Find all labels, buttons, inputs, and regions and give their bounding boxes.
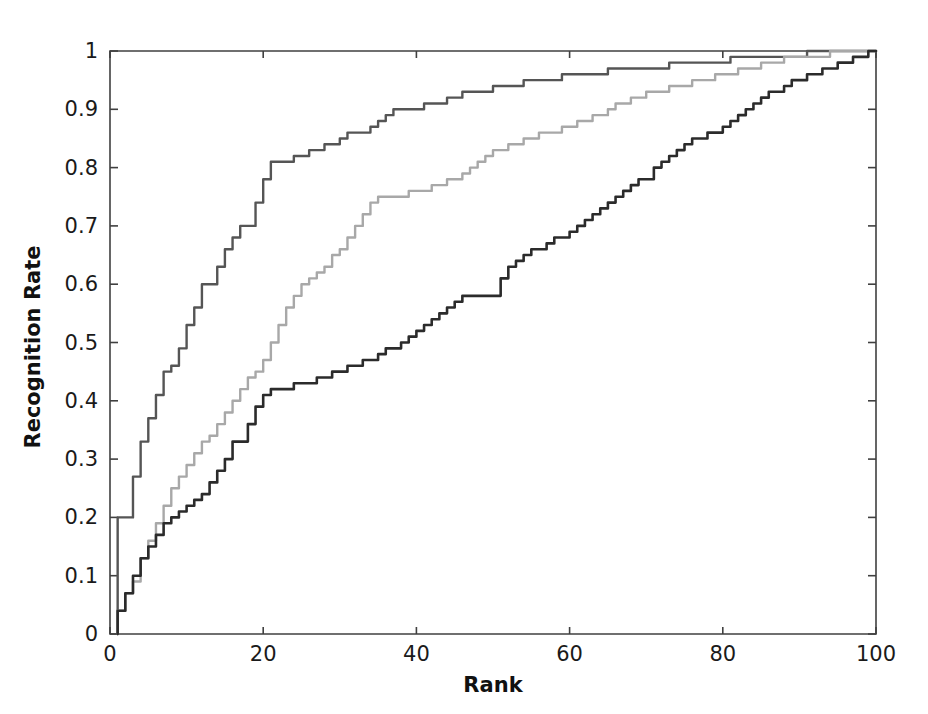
x-tick-label: 40	[403, 642, 430, 666]
y-tick-label: 0.6	[65, 272, 98, 296]
x-tick-label: 100	[856, 642, 896, 666]
x-tick-label: 20	[250, 642, 277, 666]
y-tick-label: 0.1	[65, 564, 98, 588]
y-tick-label: 0.2	[65, 505, 98, 529]
y-tick-label: 0.7	[65, 214, 98, 238]
y-axis-title: Recognition Rate	[21, 245, 45, 448]
x-tick-label: 60	[556, 642, 583, 666]
y-tick-label: 0.4	[65, 389, 98, 413]
y-tick-label: 0.5	[65, 331, 98, 355]
chart-figure: 02040608010000.10.20.30.40.50.60.70.80.9…	[0, 0, 928, 714]
y-tick-label: 0.8	[65, 156, 98, 180]
plot-background	[0, 0, 928, 714]
y-tick-label: 0.9	[65, 97, 98, 121]
y-tick-label: 1	[85, 39, 98, 63]
cmc-curve-chart: 02040608010000.10.20.30.40.50.60.70.80.9…	[0, 0, 928, 714]
y-tick-label: 0	[85, 622, 98, 646]
y-tick-label: 0.3	[65, 447, 98, 471]
x-axis-title: Rank	[463, 673, 523, 697]
x-tick-label: 80	[709, 642, 736, 666]
x-tick-label: 0	[103, 642, 116, 666]
